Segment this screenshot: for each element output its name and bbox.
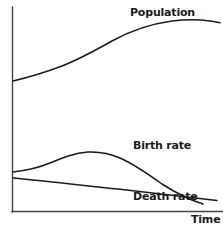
death-rate-label: Death rate: [133, 191, 198, 203]
x-axis-label: Time: [191, 214, 220, 226]
population-label: Population: [130, 7, 195, 19]
demographic-transition-chart: Population Birth rate Death rate Time: [0, 0, 223, 227]
birth-rate-label: Birth rate: [133, 140, 191, 152]
population-curve: [13, 20, 220, 81]
